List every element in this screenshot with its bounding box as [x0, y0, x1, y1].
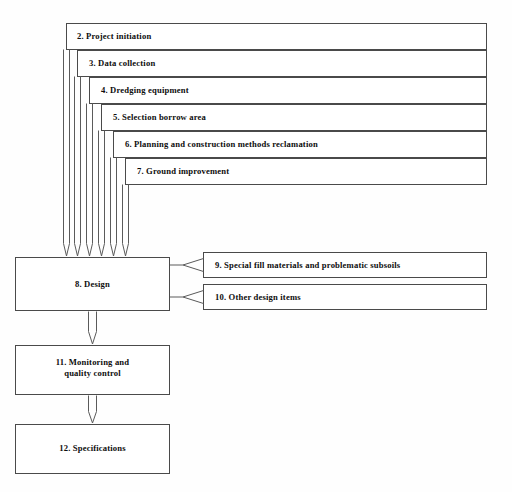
side-connectors-group — [170, 259, 204, 304]
box-2-label: 2. Project initiation — [77, 31, 151, 42]
connector-box8-to-box11 — [89, 312, 97, 345]
box-5-label: 5. Selection borrow area — [113, 112, 206, 123]
box-8-label: 8. Design — [15, 279, 170, 290]
connector-box4-to-box8 — [87, 104, 93, 257]
box-4-label: 4. Dredging equipment — [101, 85, 189, 96]
box-3-label: 3. Data collection — [89, 58, 155, 69]
connector-box10-to-box8 — [170, 291, 204, 304]
box-12-label: 12. Specifications — [15, 443, 170, 454]
box-6-label: 6. Planning and construction methods rec… — [125, 139, 318, 150]
connector-box6-to-box8 — [111, 158, 117, 257]
diagram-vector-layer — [0, 0, 512, 492]
nested-boxes-group — [67, 24, 487, 185]
flowchart-diagram: 2. Project initiation 3. Data collection… — [0, 0, 512, 492]
connector-box5-to-box8 — [99, 131, 105, 257]
connector-box9-to-box8 — [170, 259, 204, 272]
box-9-label: 9. Special fill materials and problemati… — [215, 260, 400, 271]
connector-box3-to-box8 — [75, 77, 81, 257]
connector-box11-to-box12 — [89, 396, 97, 424]
connector-box7-to-box8 — [123, 185, 129, 257]
connector-box2-to-box8 — [64, 50, 70, 257]
box-11-label: 11. Monitoring and quality control — [15, 357, 170, 379]
box-10-label: 10. Other design items — [215, 292, 301, 303]
box-7-label: 7. Ground improvement — [137, 166, 229, 177]
